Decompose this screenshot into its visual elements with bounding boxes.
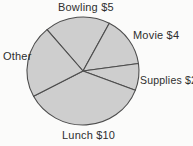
pie-label-bowling: Bowling $5 [58, 1, 114, 14]
pie-label-other: Other [3, 50, 32, 63]
pie-label-movie: Movie $4 [133, 29, 179, 42]
pie-label-supplies: Supplies $2 [140, 74, 193, 87]
pie-chart-figure: Bowling $5 Movie $4 Supplies $2 Lunch $1… [0, 0, 193, 146]
pie-chart-svg [0, 0, 193, 146]
pie-label-lunch: Lunch $10 [62, 129, 115, 142]
